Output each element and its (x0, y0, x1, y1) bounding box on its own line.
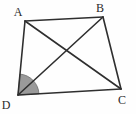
vertex-label-b: B (96, 1, 104, 15)
side-ab (25, 17, 103, 21)
geometry-figure-canvas: A B C D (0, 0, 136, 114)
vertex-label-a: A (14, 5, 23, 19)
vertex-label-d: D (2, 98, 11, 112)
vertex-label-c: C (118, 93, 126, 107)
diagonal-bd (18, 17, 103, 95)
quadrilateral-diagram: A B C D (0, 0, 136, 114)
